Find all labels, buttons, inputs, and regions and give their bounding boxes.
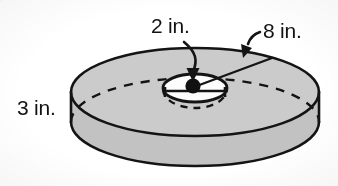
cylinder-diagram-svg: 2 in. 8 in. 3 in. [0,0,338,186]
geometry-figure: 2 in. 8 in. 3 in. [0,0,338,186]
height-dimension-label: 3 in. [17,96,56,119]
radius-dimension-label: 8 in. [263,19,302,42]
hole-dimension-label: 2 in. [151,14,190,37]
